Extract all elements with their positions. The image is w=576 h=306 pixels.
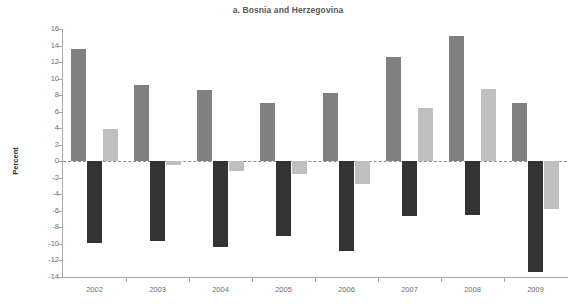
bar-series-1-2009 xyxy=(512,103,527,161)
bar-series-3-2004 xyxy=(229,161,244,171)
x-tick-label-2003: 2003 xyxy=(128,285,188,294)
bar-series-2-2003 xyxy=(150,161,165,241)
bar-series-1-2004 xyxy=(197,90,212,161)
y-tick-label: -10 xyxy=(48,240,59,248)
y-tick-label: -2 xyxy=(52,174,59,182)
x-tick-label-2005: 2005 xyxy=(254,285,314,294)
x-tick-label-2004: 2004 xyxy=(191,285,251,294)
y-tick-label: 16 xyxy=(51,25,59,33)
bar-series-1-2008 xyxy=(449,36,464,161)
bar-series-2-2006 xyxy=(339,161,354,250)
bar-series-3-2006 xyxy=(355,161,370,184)
x-tick-label-2009: 2009 xyxy=(506,285,566,294)
y-tick-label: -8 xyxy=(52,224,59,232)
plot-area: 1614121086420-2-4-6-8-10-12-14 xyxy=(63,29,567,277)
chart-title: a. Bosnia and Herzegovina xyxy=(0,5,576,15)
bar-series-2-2007 xyxy=(402,161,417,216)
bar-series-3-2002 xyxy=(103,129,118,161)
y-axis-label: Percent xyxy=(11,147,20,175)
x-tick-mark xyxy=(126,277,127,282)
y-tick-label: -6 xyxy=(52,207,59,215)
y-tick-label: -4 xyxy=(52,191,59,199)
bar-series-2-2008 xyxy=(465,161,480,215)
x-tick-mark xyxy=(315,277,316,282)
bar-series-2-2005 xyxy=(276,161,291,236)
y-tick-label: -12 xyxy=(48,257,59,265)
x-tick-label-2007: 2007 xyxy=(380,285,440,294)
bar-series-3-2007 xyxy=(418,108,433,161)
bar-series-3-2009 xyxy=(544,161,559,209)
x-tick-mark xyxy=(441,277,442,282)
bar-series-1-2002 xyxy=(71,49,86,161)
x-tick-mark xyxy=(252,277,253,282)
bar-series-2-2004 xyxy=(213,161,228,247)
x-tick-mark xyxy=(504,277,505,282)
x-tick-label-2002: 2002 xyxy=(65,285,125,294)
y-tick-label: 4 xyxy=(55,124,59,132)
y-tick-label: 10 xyxy=(51,75,59,83)
zero-reference-line xyxy=(63,161,567,162)
bar-series-2-2002 xyxy=(87,161,102,243)
bar-series-3-2008 xyxy=(481,89,496,162)
bar-series-1-2003 xyxy=(134,85,149,161)
y-tick-label: 8 xyxy=(55,91,59,99)
y-tick-label: 14 xyxy=(51,42,59,50)
y-tick-label: -14 xyxy=(48,273,59,281)
y-tick-label: 6 xyxy=(55,108,59,116)
x-tick-mark xyxy=(189,277,190,282)
x-tick-label-2006: 2006 xyxy=(317,285,377,294)
bar-series-1-2005 xyxy=(260,103,275,162)
y-tick-label: 0 xyxy=(55,158,59,166)
y-tick-label: 2 xyxy=(55,141,59,149)
x-tick-mark xyxy=(378,277,379,282)
x-tick-label-2008: 2008 xyxy=(443,285,503,294)
chart-figure: a. Bosnia and Herzegovina Percent 161412… xyxy=(0,0,576,306)
y-tick-label: 12 xyxy=(51,58,59,66)
bar-series-1-2006 xyxy=(323,93,338,161)
bar-series-2-2009 xyxy=(528,161,543,272)
bar-series-1-2007 xyxy=(386,57,401,161)
bar-series-3-2005 xyxy=(292,161,307,174)
bar-series-3-2003 xyxy=(166,161,181,164)
